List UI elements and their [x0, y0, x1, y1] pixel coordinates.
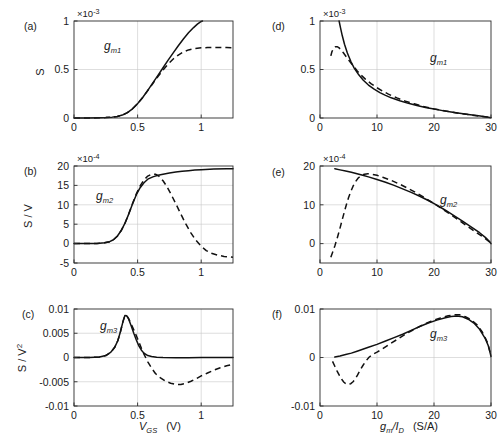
curve-annotation-f: gm3 — [430, 327, 448, 343]
y-axis-exponent-e: ×10-4 — [323, 152, 346, 165]
ytick-label: 10 — [57, 199, 69, 211]
xtick-label: 0.5 — [130, 121, 145, 133]
curve-annotation-subscript: m3 — [107, 326, 118, 335]
y-axis-title-b: S / V — [22, 203, 34, 228]
xtick-label: 1 — [198, 121, 204, 133]
xtick-label: 20 — [428, 266, 440, 278]
curve-a-dashed — [74, 47, 233, 118]
xtick-label: 0.5 — [130, 266, 145, 278]
x-axis-title-c: VGS(V) — [139, 420, 181, 435]
ytick-label: 20 — [57, 160, 69, 172]
ytick-label: 15 — [57, 179, 69, 191]
ytick-label: 0.01 — [49, 303, 70, 315]
panel-tag-f: (f) — [272, 308, 282, 320]
xtick-label: 0 — [71, 266, 77, 278]
ytick-label: -0.005 — [39, 376, 69, 388]
xtick-label: 10 — [371, 121, 383, 133]
curve-e-solid — [335, 169, 491, 244]
curve-annotation-subscript: m1 — [111, 46, 121, 55]
curve-c-solid — [74, 316, 233, 358]
ytick-label: 20 — [303, 160, 315, 172]
panel-d: (d)010203000.51×10-3gm1 — [272, 7, 497, 134]
ytick-label: 0 — [63, 237, 69, 249]
panel-a: (a)00.5100.51×10-3gm1S — [24, 7, 233, 134]
ytick-label: 0 — [309, 237, 315, 249]
curve-e-dashed — [331, 174, 491, 257]
xtick-label: 20 — [428, 121, 440, 133]
x-axis-title-unit: (V) — [166, 420, 181, 432]
ytick-label: 1 — [309, 15, 315, 27]
ytick-label: -5 — [60, 257, 69, 269]
y-axis-exponent-power: -3 — [93, 7, 99, 16]
xtick-label: 0 — [317, 266, 323, 278]
x-axis-title-f: gm/ID(S/A) — [380, 420, 438, 435]
panel-b: (b)00.51-505101520×10-4gm2S / V — [22, 152, 233, 279]
ytick-label: 0.005 — [43, 327, 69, 339]
xtick-label: 0 — [71, 409, 77, 421]
xtick-label: 30 — [485, 121, 497, 133]
curve-annotation-b: gm2 — [96, 189, 114, 205]
xtick-label: 30 — [485, 409, 497, 421]
curve-annotation-c: gm3 — [100, 319, 118, 335]
curve-c-dashed — [74, 316, 233, 385]
x-axis-title-subscript: GS — [146, 426, 157, 435]
ytick-label: 0 — [63, 351, 69, 363]
ytick-label: 0.01 — [295, 303, 316, 315]
y-axis-title-c: S / V2 — [15, 343, 28, 372]
x-axis-title-unit: (S/A) — [413, 420, 438, 432]
figure-container: (a)00.5100.51×10-3gm1S(d)010203000.51×10… — [0, 0, 502, 439]
curve-annotation-subscript: m3 — [437, 334, 448, 343]
y-axis-exponent-a: ×10-3 — [77, 7, 100, 20]
panel-tag-a: (a) — [24, 20, 37, 32]
curve-annotation-a: gm1 — [104, 39, 121, 55]
curve-f-solid — [335, 316, 491, 357]
y-axis-exponent-power: -4 — [339, 152, 345, 161]
xtick-label: 30 — [485, 266, 497, 278]
ytick-label: -0.01 — [291, 400, 315, 412]
xtick-label: 0 — [317, 409, 323, 421]
y-axis-title-superscript: 2 — [15, 343, 24, 348]
ytick-label: 5 — [63, 218, 69, 230]
xtick-label: 1 — [198, 266, 204, 278]
curve-annotation-subscript: m2 — [103, 196, 114, 205]
curve-f-dashed — [333, 315, 491, 385]
curve-annotation-e: gm2 — [440, 193, 458, 209]
ytick-label: 10 — [303, 199, 315, 211]
xtick-label: 0 — [71, 121, 77, 133]
xtick-label: 10 — [371, 266, 383, 278]
ytick-label: 0 — [309, 351, 315, 363]
plot-frame-b — [74, 166, 233, 263]
ytick-label: -0.01 — [45, 400, 69, 412]
ytick-label: 0 — [309, 112, 315, 124]
transconductance-figure: (a)00.5100.51×10-3gm1S(d)010203000.51×10… — [0, 0, 502, 439]
curve-annotation-subscript: m1 — [437, 58, 447, 67]
panel-tag-e: (e) — [272, 166, 285, 178]
x-axis-title-mid: /I — [391, 420, 398, 432]
panel-e: (e)010203001020×10-4gm2 — [272, 152, 497, 279]
y-axis-title-a: S — [34, 68, 46, 75]
plot-frame-e — [320, 166, 491, 263]
y-axis-exponent-power: -4 — [93, 152, 99, 161]
y-axis-exponent-d: ×10-3 — [323, 7, 346, 20]
curve-d-dashed — [331, 47, 491, 118]
curve-annotation-d: gm1 — [430, 51, 447, 67]
panel-c: (c)00.51-0.01-0.00500.0050.01gm3S / V2VG… — [15, 303, 233, 435]
curve-b-solid — [74, 169, 233, 244]
y-axis-exponent-power: -3 — [339, 7, 345, 16]
panel-tag-c: (c) — [22, 308, 34, 320]
ytick-label: 0.5 — [54, 63, 69, 75]
curve-annotation-subscript: m2 — [447, 200, 458, 209]
ytick-label: 0.5 — [300, 63, 315, 75]
panel-tag-b: (b) — [24, 165, 37, 177]
curve-b-dashed — [74, 174, 233, 257]
ytick-label: 0 — [63, 112, 69, 124]
xtick-label: 0 — [317, 121, 323, 133]
panel-f: (f)0102030-0.0100.01gm3gm/ID(S/A) — [272, 303, 497, 435]
panel-tag-d: (d) — [272, 20, 285, 32]
xtick-label: 1 — [198, 409, 204, 421]
ytick-label: 1 — [63, 15, 69, 27]
y-axis-exponent-b: ×10-4 — [77, 152, 100, 165]
x-axis-title-subscript-2: D — [399, 426, 405, 435]
